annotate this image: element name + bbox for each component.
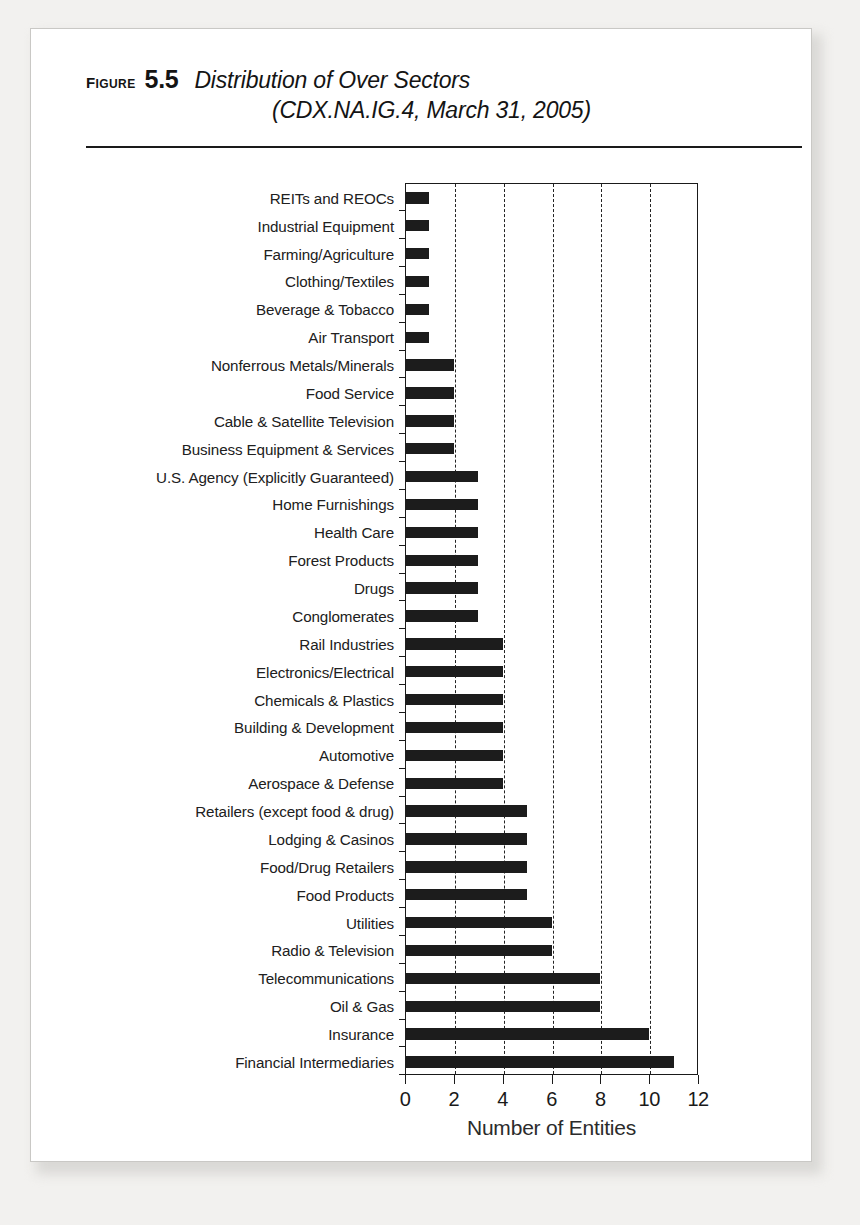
y-axis-label: Telecommunications (258, 970, 394, 987)
y-axis-label: Retailers (except food & drug) (195, 803, 394, 820)
x-axis-tick-label: 12 (687, 1088, 708, 1111)
y-axis-label: Forest Products (288, 552, 394, 569)
figure-label: FIGURE (86, 69, 136, 93)
x-axis-tick-label: 4 (497, 1088, 508, 1111)
x-axis-tick-label: 2 (449, 1088, 460, 1111)
y-axis-label: Cable & Satellite Television (214, 412, 394, 429)
y-axis-label: Home Furnishings (272, 496, 394, 513)
title-divider-rule (86, 146, 802, 148)
y-axis-label: Farming/Agriculture (263, 245, 394, 262)
y-axis-label: Insurance (328, 1026, 394, 1043)
figure-number: 5.5 (145, 65, 179, 94)
y-axis-label: Oil & Gas (330, 998, 394, 1015)
gridline-6 (553, 184, 554, 1074)
figure-subtitle-text: (CDX.NA.IG.4, March 31, 2005) (272, 97, 802, 124)
x-axis-tick-label: 8 (595, 1088, 606, 1111)
figure-title-text: Distribution of Over Sectors (194, 67, 470, 94)
y-axis-label: Industrial Equipment (258, 217, 394, 234)
x-axis-tick-12 (698, 1075, 699, 1084)
y-axis-label: REITs and REOCs (270, 189, 394, 206)
y-axis-label: Food Service (306, 384, 394, 401)
gridline-10 (650, 184, 651, 1074)
x-axis-tick-label: 6 (546, 1088, 557, 1111)
plot-area-frame (405, 183, 698, 1075)
y-axis-label: Financial Intermediaries (235, 1053, 394, 1070)
y-axis-label: Chemicals & Plastics (254, 691, 394, 708)
x-axis-tick-4 (503, 1075, 504, 1084)
y-axis-label: Radio & Television (271, 942, 394, 959)
gridline-2 (455, 184, 456, 1074)
gridline-8 (601, 184, 602, 1074)
y-axis-label: U.S. Agency (Explicitly Guaranteed) (156, 468, 394, 485)
y-axis-label: Food Products (297, 886, 394, 903)
x-axis-tick-label: 0 (400, 1088, 411, 1111)
y-axis-label: Lodging & Casinos (268, 830, 394, 847)
y-axis-label: Conglomerates (292, 607, 394, 624)
y-axis-label: Air Transport (308, 329, 394, 346)
y-axis-label: Health Care (314, 524, 394, 541)
y-axis-label: Nonferrous Metals/Minerals (211, 357, 394, 374)
figure-card: FIGURE 5.5 Distribution of Over Sectors … (30, 28, 812, 1162)
gridline-4 (504, 184, 505, 1074)
x-axis-tick-2 (454, 1075, 455, 1084)
y-axis-label: Utilities (346, 914, 394, 931)
x-axis-title: Number of Entities (405, 1116, 698, 1140)
y-axis-label: Clothing/Textiles (285, 273, 394, 290)
y-axis-label: Building & Development (234, 719, 394, 736)
y-axis-label: Drugs (354, 580, 394, 597)
x-axis-tick-6 (552, 1075, 553, 1084)
x-axis-tick-8 (600, 1075, 601, 1084)
figure-title-block: FIGURE 5.5 Distribution of Over Sectors … (86, 65, 802, 124)
x-axis-tick-0 (405, 1075, 406, 1084)
page-background: FIGURE 5.5 Distribution of Over Sectors … (0, 0, 860, 1225)
x-axis-tick-10 (649, 1075, 650, 1084)
x-axis-tick-label: 10 (639, 1088, 660, 1111)
y-axis-label: Aerospace & Defense (248, 775, 394, 792)
y-axis-label: Automotive (319, 747, 394, 764)
figure-title-line-1: FIGURE 5.5 Distribution of Over Sectors (86, 65, 802, 94)
y-axis-label: Beverage & Tobacco (256, 301, 394, 318)
y-axis-label: Electronics/Electrical (256, 663, 394, 680)
y-axis-label: Business Equipment & Services (182, 440, 394, 457)
y-axis-label: Food/Drug Retailers (260, 858, 394, 875)
y-axis-label: Rail Industries (299, 635, 394, 652)
